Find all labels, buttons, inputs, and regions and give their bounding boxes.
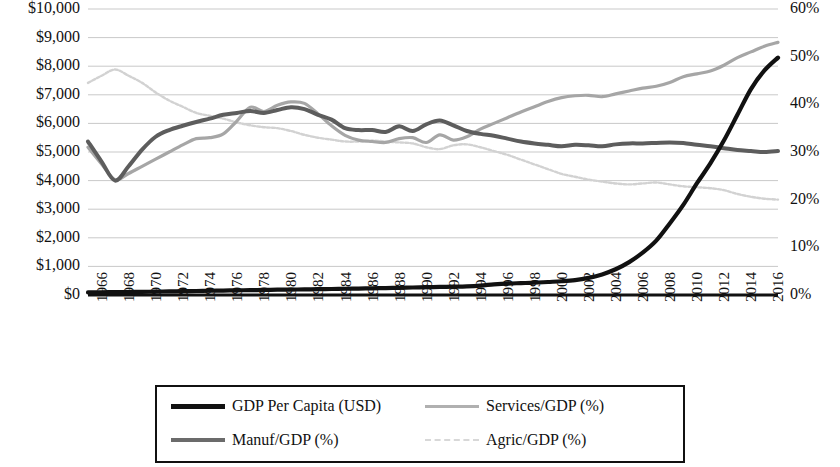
plot-area [0, 0, 840, 360]
series-line [88, 107, 778, 180]
plot-canvas [0, 0, 840, 360]
legend-entry: Services/GDP (%) [425, 397, 604, 415]
chart-legend: GDP Per Capita (USD)Services/GDP (%)Manu… [155, 385, 685, 463]
legend-swatch-line-icon [171, 438, 225, 442]
legend-label: GDP Per Capita (USD) [232, 397, 381, 415]
legend-label: Services/GDP (%) [486, 397, 604, 415]
legend-swatch-line-icon [171, 404, 225, 409]
legend-label: Agric/GDP (%) [486, 431, 586, 449]
legend-entry: GDP Per Capita (USD) [171, 397, 381, 415]
series-line [88, 58, 778, 293]
legend-swatch-line-icon [425, 439, 479, 441]
chart-figure: $0$1,000$2,000$3,000$4,000$5,000$6,000$7… [0, 0, 840, 467]
gridlines [88, 9, 778, 295]
legend-entry: Manuf/GDP (%) [171, 431, 339, 449]
legend-label: Manuf/GDP (%) [232, 431, 339, 449]
legend-entry: Agric/GDP (%) [425, 431, 586, 449]
legend-swatch-line-icon [425, 405, 479, 408]
